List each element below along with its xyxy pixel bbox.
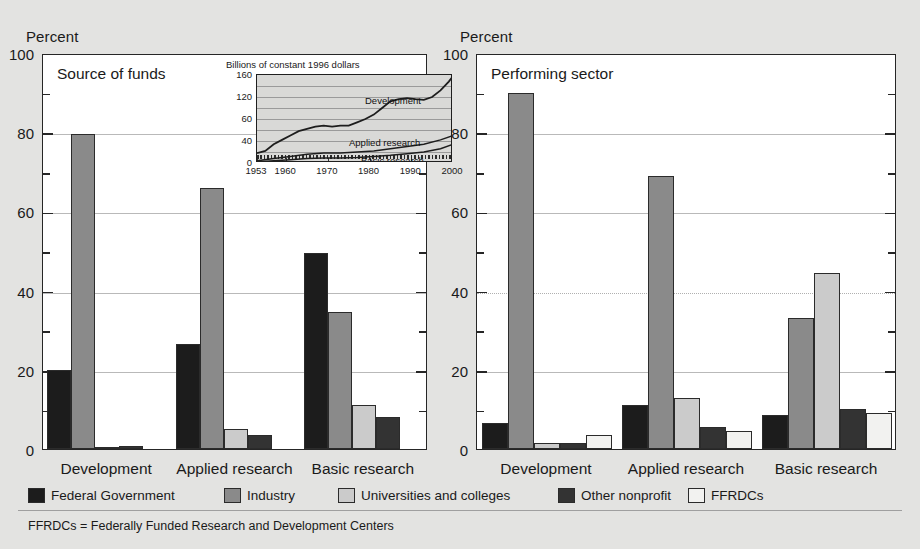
y-minor-tick xyxy=(477,331,484,333)
bar-nonprofit xyxy=(376,417,400,449)
y-tick-label: 40 xyxy=(2,283,34,300)
bar-univ xyxy=(224,429,248,449)
y-tick-label: 20 xyxy=(436,362,468,379)
footnote: FFRDCs = Federally Funded Research and D… xyxy=(28,519,394,533)
y-tick-mark xyxy=(477,292,487,294)
y-minor-tick xyxy=(477,173,484,175)
y-axis-unit-label: Percent xyxy=(460,28,512,45)
gridline xyxy=(43,213,426,214)
bar-industry xyxy=(648,176,674,449)
legend-item-nonprofit: Other nonprofit xyxy=(558,488,671,503)
category-label: Development xyxy=(60,460,151,478)
y-minor-tick xyxy=(477,411,484,413)
y-tick-label: 60 xyxy=(2,204,34,221)
gridline xyxy=(43,134,426,135)
y-tick-label: 20 xyxy=(2,362,34,379)
category-label: Basic research xyxy=(312,460,415,478)
y-tick-mark xyxy=(416,133,426,135)
legend-item-industry: Industry xyxy=(224,488,295,503)
bar-industry xyxy=(200,188,224,449)
bar-univ xyxy=(95,447,119,449)
y-minor-tick xyxy=(888,252,895,254)
y-tick-mark xyxy=(885,213,895,215)
bar-federal xyxy=(176,344,200,449)
bar-federal xyxy=(762,415,788,449)
panel-title-right: Performing sector xyxy=(491,65,613,83)
legend-swatch-nonprofit xyxy=(558,488,575,503)
bar-industry xyxy=(71,134,95,449)
y-minor-tick xyxy=(477,94,484,96)
y-tick-label: 0 xyxy=(2,442,34,459)
bar-ffrdc xyxy=(866,413,892,449)
legend-label: Universities and colleges xyxy=(361,488,510,503)
y-minor-tick xyxy=(419,411,426,413)
y-tick-label: 80 xyxy=(2,125,34,142)
bar-federal xyxy=(47,370,71,449)
bar-nonprofit xyxy=(560,443,586,449)
y-tick-mark xyxy=(885,292,895,294)
chart-panel-left: Source of funds xyxy=(42,54,427,450)
category-label: Applied research xyxy=(628,460,744,478)
category-label: Development xyxy=(500,460,591,478)
y-minor-tick xyxy=(888,173,895,175)
y-minor-tick xyxy=(477,252,484,254)
bar-federal xyxy=(304,253,328,449)
y-minor-tick xyxy=(419,252,426,254)
y-tick-mark xyxy=(416,213,426,215)
y-tick-mark xyxy=(477,371,487,373)
category-label: Basic research xyxy=(775,460,878,478)
gridline xyxy=(43,293,426,294)
bar-univ xyxy=(814,273,840,449)
legend-swatch-univ xyxy=(338,488,355,503)
bar-nonprofit xyxy=(248,435,272,449)
y-tick-label: 60 xyxy=(436,204,468,221)
y-tick-label: 100 xyxy=(436,46,468,63)
y-tick-label: 80 xyxy=(436,125,468,142)
y-tick-label: 40 xyxy=(436,283,468,300)
y-tick-mark xyxy=(477,133,487,135)
legend-item-ffrdc: FFRDCs xyxy=(688,488,764,503)
y-minor-tick xyxy=(888,411,895,413)
bar-industry xyxy=(788,318,814,449)
y-tick-mark xyxy=(477,213,487,215)
legend-label: Other nonprofit xyxy=(581,488,671,503)
y-tick-mark xyxy=(416,292,426,294)
y-minor-tick xyxy=(43,173,50,175)
panel-title-left: Source of funds xyxy=(57,65,166,83)
y-minor-tick xyxy=(43,331,50,333)
bar-univ xyxy=(674,398,700,449)
y-tick-mark xyxy=(416,371,426,373)
y-tick-mark xyxy=(885,371,895,373)
bar-industry xyxy=(328,312,352,449)
y-tick-label: 100 xyxy=(2,46,34,63)
y-minor-tick xyxy=(888,94,895,96)
y-tick-mark xyxy=(885,133,895,135)
y-tick-mark xyxy=(43,133,53,135)
legend-item-federal: Federal Government xyxy=(28,488,175,503)
y-minor-tick xyxy=(888,331,895,333)
bar-univ xyxy=(534,443,560,449)
bar-nonprofit xyxy=(700,427,726,449)
bar-univ xyxy=(352,405,376,449)
legend-label: Industry xyxy=(247,488,295,503)
legend-label: FFRDCs xyxy=(711,488,764,503)
bar-nonprofit xyxy=(840,409,866,449)
bar-federal xyxy=(482,423,508,449)
legend-divider xyxy=(18,510,902,511)
chart-panel-right: Performing sector xyxy=(476,54,896,450)
gridline xyxy=(43,372,426,373)
y-tick-mark xyxy=(43,292,53,294)
bar-ffrdc xyxy=(586,435,612,449)
bar-ffrdc xyxy=(726,431,752,449)
category-label: Applied research xyxy=(176,460,292,478)
legend-swatch-industry xyxy=(224,488,241,503)
legend-swatch-federal xyxy=(28,488,45,503)
bar-federal xyxy=(622,405,648,449)
legend-label: Federal Government xyxy=(51,488,175,503)
y-minor-tick xyxy=(43,94,50,96)
y-tick-label: 0 xyxy=(436,442,468,459)
y-minor-tick xyxy=(419,173,426,175)
y-minor-tick xyxy=(419,94,426,96)
legend-swatch-ffrdc xyxy=(688,488,705,503)
gridline xyxy=(477,213,895,214)
